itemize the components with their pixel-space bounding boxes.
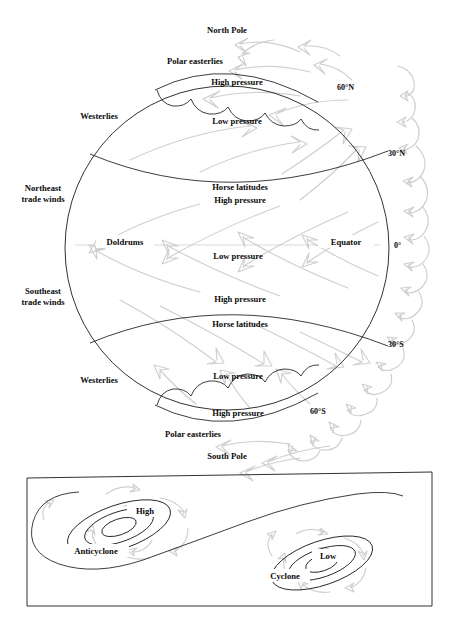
label-cyclone: Cyclone (270, 571, 300, 581)
label-polar-easterlies-north: Polar easterlies (167, 56, 224, 66)
canvas-background (0, 0, 458, 619)
label-high-pressure-subtropical-north: High pressure (214, 195, 266, 205)
label-high-pressure-polar-north: High pressure (211, 77, 263, 87)
label-equator: Equator (331, 237, 362, 247)
label-north-pole: North Pole (207, 25, 247, 35)
label-horse-latitudes-north: Horse latitudes (212, 182, 268, 192)
label-lat-60n: 60°N (337, 83, 354, 92)
label-lat-30s: 30°S (388, 340, 404, 349)
label-northeast-trade-winds-line1: Northeast (25, 183, 61, 193)
label-westerlies-north: Westerlies (80, 111, 118, 121)
figure-canvas: North Pole Polar easterlies High pressur… (0, 0, 458, 619)
label-anticyclone: Anticyclone (74, 546, 118, 556)
label-southeast-trade-winds-line1: Southeast (25, 286, 61, 296)
label-westerlies-south: Westerlies (80, 375, 118, 385)
label-low-pressure-subpolar-south: Low pressure (213, 371, 263, 381)
label-northeast-trade-winds-line2: trade winds (21, 194, 65, 204)
label-south-pole: South Pole (207, 451, 247, 461)
label-high-pressure-subtropical-south: High pressure (214, 294, 266, 304)
atmospheric-circulation-figure: North Pole Polar easterlies High pressur… (0, 0, 458, 619)
label-doldrums: Doldrums (107, 237, 144, 247)
label-high-center: High (136, 506, 154, 516)
label-low-pressure-equatorial: Low pressure (213, 251, 263, 261)
label-lat-30n: 30°N (388, 149, 405, 158)
label-lat-0: 0° (394, 241, 401, 250)
label-high-pressure-polar-south: High pressure (212, 408, 264, 418)
label-low-pressure-subpolar-north: Low pressure (212, 116, 262, 126)
label-polar-easterlies-south: Polar easterlies (165, 429, 222, 439)
label-lat-60s: 60°S (310, 407, 326, 416)
label-southeast-trade-winds-line2: trade winds (21, 297, 65, 307)
label-horse-latitudes-south: Horse latitudes (212, 319, 268, 329)
label-low-center: Low (320, 551, 337, 561)
